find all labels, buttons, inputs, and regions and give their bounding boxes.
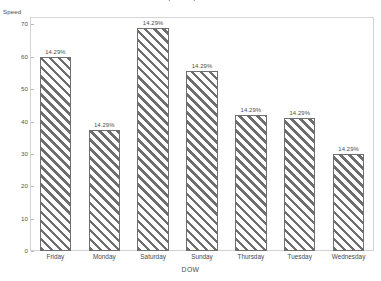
chart-title: Speed by DOW bbox=[0, 0, 381, 1]
bar-slot: 14.29% bbox=[31, 18, 80, 251]
bar-value-label: 14.29% bbox=[192, 63, 213, 69]
bar-slot: 14.29% bbox=[324, 18, 373, 251]
bar[interactable] bbox=[333, 154, 365, 251]
x-axis-tick-label: Tuesday bbox=[275, 253, 324, 260]
x-axis-tick-labels: FridayMondaySaturdaySundayThursdayTuesda… bbox=[31, 253, 373, 265]
x-axis-tick-label: Wednesday bbox=[324, 253, 373, 260]
bar[interactable] bbox=[235, 115, 267, 251]
x-axis-tick-label: Friday bbox=[31, 253, 80, 260]
bar-slot: 14.29% bbox=[178, 18, 227, 251]
y-axis-tick-label: 50 bbox=[21, 85, 28, 92]
bar[interactable] bbox=[186, 71, 218, 251]
bar-value-label: 14.29% bbox=[289, 110, 310, 116]
bar[interactable] bbox=[89, 130, 121, 251]
x-axis-tick-label: Monday bbox=[80, 253, 129, 260]
y-axis-tick-mark bbox=[31, 251, 34, 252]
bar-value-label: 14.29% bbox=[143, 20, 164, 26]
bar[interactable] bbox=[137, 28, 169, 251]
bar-slot: 14.29% bbox=[129, 18, 178, 251]
bar-value-label: 14.29% bbox=[94, 122, 115, 128]
bar-chart: Speed by DOW Speed 010203040506070 14.29… bbox=[0, 0, 381, 281]
bar-slot: 14.29% bbox=[226, 18, 275, 251]
y-axis-tick-label: 0 bbox=[25, 247, 28, 254]
bar-value-label: 14.29% bbox=[241, 107, 262, 113]
bar-slot: 14.29% bbox=[80, 18, 129, 251]
bars-layer: 14.29%14.29%14.29%14.29%14.29%14.29%14.2… bbox=[31, 18, 373, 251]
bar-slot: 14.29% bbox=[275, 18, 324, 251]
y-axis-tick-label: 40 bbox=[21, 118, 28, 125]
x-axis-title: DOW bbox=[0, 266, 381, 273]
x-axis-tick-label: Saturday bbox=[129, 253, 178, 260]
x-axis-tick-label: Thursday bbox=[226, 253, 275, 260]
y-axis-tick-label: 70 bbox=[21, 20, 28, 27]
y-axis-tick-label: 10 bbox=[21, 215, 28, 222]
y-axis-tick-label: 30 bbox=[21, 150, 28, 157]
x-axis-tick-label: Sunday bbox=[178, 253, 227, 260]
y-axis-tick-label: 60 bbox=[21, 53, 28, 60]
bar-value-label: 14.29% bbox=[45, 49, 66, 55]
y-axis-tick-label: 20 bbox=[21, 182, 28, 189]
bar-value-label: 14.29% bbox=[338, 146, 359, 152]
y-axis-title: Speed bbox=[3, 8, 21, 15]
bar[interactable] bbox=[40, 57, 72, 251]
bar[interactable] bbox=[284, 118, 316, 251]
